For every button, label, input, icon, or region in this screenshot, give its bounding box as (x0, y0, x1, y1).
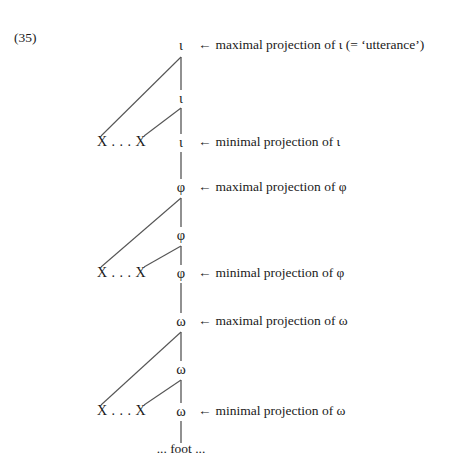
annotation-ann-phi-min: ←minimal projection of φ (198, 266, 344, 280)
prosodic-tree-diagram: (35) ιιιφφφωωω X . . . XX . . . XX . . .… (0, 0, 451, 463)
annotation-ann-phi-max: ←maximal projection of φ (198, 180, 347, 194)
tree-node-iota-max: ι (168, 38, 194, 53)
annotation-ann-omega-min: ←minimal projection of ω (198, 404, 345, 418)
tree-adjunct-adjunct-iota: X . . . X (97, 135, 146, 149)
annotation-ann-iota-max: ←maximal projection of ι (= ‘utterance’) (198, 38, 424, 52)
left-arrow-icon: ← (198, 403, 212, 418)
tree-branch-lines (0, 0, 451, 463)
tree-node-phi-max: φ (168, 180, 194, 195)
tree-node-omega-mid: ω (168, 362, 194, 377)
foot-label: ... foot ... (121, 442, 241, 456)
tree-branch-line (144, 380, 181, 405)
tree-adjunct-adjunct-phi: X . . . X (97, 266, 146, 280)
annotation-ann-iota-min: ←minimal projection of ι (198, 135, 340, 149)
tree-adjunct-adjunct-omega: X . . . X (97, 404, 146, 418)
tree-node-iota-mid: ι (168, 91, 194, 106)
example-number-label: (35) (14, 31, 37, 45)
annotation-text: minimal projection of ω (216, 403, 346, 418)
tree-node-phi-mid: φ (168, 228, 194, 243)
left-arrow-icon: ← (198, 37, 212, 52)
annotation-text: maximal projection of ι (= ‘utterance’) (216, 37, 425, 52)
tree-node-iota-min: ι (168, 135, 194, 150)
tree-node-phi-min: φ (168, 266, 194, 281)
tree-node-omega-max: ω (168, 314, 194, 329)
annotation-ann-omega-max: ←maximal projection of ω (198, 314, 348, 328)
tree-node-omega-min: ω (168, 404, 194, 419)
annotation-text: maximal projection of ω (216, 313, 348, 328)
annotation-text: minimal projection of ι (216, 134, 341, 149)
left-arrow-icon: ← (198, 313, 212, 328)
left-arrow-icon: ← (198, 265, 212, 280)
left-arrow-icon: ← (198, 179, 212, 194)
tree-branch-line (144, 108, 181, 136)
annotation-text: minimal projection of φ (216, 265, 345, 280)
left-arrow-icon: ← (198, 134, 212, 149)
annotation-text: maximal projection of φ (216, 179, 347, 194)
tree-branch-line (144, 246, 181, 267)
